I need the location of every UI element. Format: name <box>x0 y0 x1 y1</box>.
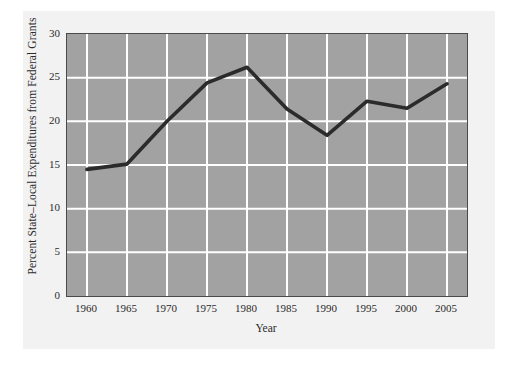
x-tick-label-1965: 1965 <box>105 302 147 314</box>
x-axis-label: Year <box>66 322 466 334</box>
figure-root: Percent State–Local Expenditures from Fe… <box>0 0 515 366</box>
x-tick-label-1995: 1995 <box>345 302 387 314</box>
x-tick-label-1990: 1990 <box>305 302 347 314</box>
x-tick-label-2005: 2005 <box>425 302 467 314</box>
x-tick-label-1960: 1960 <box>65 302 107 314</box>
x-tick-label-1980: 1980 <box>225 302 267 314</box>
x-tick-label-1985: 1985 <box>265 302 307 314</box>
x-tick-label-1970: 1970 <box>145 302 187 314</box>
x-tick-label-2000: 2000 <box>385 302 427 314</box>
x-axis-tick-labels: 1960 1965 1970 1975 1980 1985 1990 1995 … <box>0 0 515 366</box>
x-tick-label-1975: 1975 <box>185 302 227 314</box>
